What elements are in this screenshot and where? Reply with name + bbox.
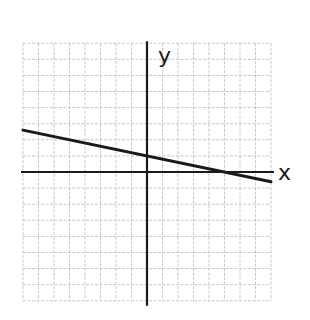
y-axis-label: y xyxy=(158,43,171,68)
coordinate-plane: x y xyxy=(0,0,310,320)
x-axis-label: x xyxy=(278,160,291,185)
